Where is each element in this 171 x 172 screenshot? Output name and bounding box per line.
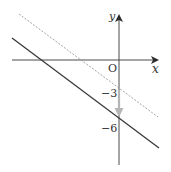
tick-label-neg3: −3 — [101, 87, 117, 100]
tick-label-neg6: −6 — [101, 122, 117, 135]
x-axis-label: x — [152, 62, 159, 76]
dashed-line — [19, 14, 158, 117]
graph-figure: y x O −3 −6 — [0, 0, 171, 172]
solid-line — [12, 38, 159, 148]
coordinate-plane: y x O −3 −6 — [0, 0, 171, 172]
y-axis-label: y — [108, 10, 116, 23]
origin-label: O — [108, 62, 117, 75]
